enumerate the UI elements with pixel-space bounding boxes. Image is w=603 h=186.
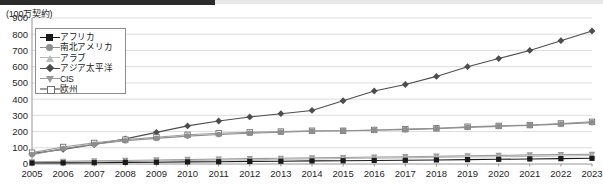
x-axis-tick-label: 2005: [21, 168, 42, 179]
data-point-marker: [184, 122, 191, 129]
data-point-marker: [558, 156, 563, 161]
data-point-marker: [277, 110, 284, 117]
data-point-marker: [123, 160, 128, 165]
data-point-marker: [434, 126, 440, 132]
legend-item-americas: 南北アメリカ: [40, 42, 122, 52]
legend-item-europe: 欧州: [40, 84, 122, 94]
x-axis-tick-label: 2006: [53, 168, 74, 179]
data-point-marker: [558, 121, 564, 127]
legend-label: アジア太平洋: [60, 63, 112, 73]
data-point-marker: [154, 136, 160, 142]
filled-triangle-icon: [40, 53, 60, 63]
y-axis-tick-label: 200: [12, 126, 28, 137]
data-point-marker: [247, 159, 252, 164]
data-point-marker: [464, 63, 471, 70]
data-point-marker: [403, 158, 408, 163]
data-point-marker: [215, 118, 222, 125]
data-point-marker: [527, 156, 532, 161]
data-point-marker: [495, 55, 502, 62]
x-axis-tick-label: 2022: [550, 168, 571, 179]
chart-figure: (100万契約) 9008007006005004003002001000200…: [0, 0, 603, 186]
legend-label: アラブ: [60, 53, 86, 63]
data-point-marker: [434, 157, 439, 162]
legend-item-asia-pacific: アジア太平洋: [40, 63, 122, 73]
data-point-marker: [309, 128, 315, 134]
y-axis-tick-label: 500: [12, 77, 28, 88]
x-axis-tick-label: 2016: [364, 168, 385, 179]
x-axis-tick-label: 2015: [333, 168, 354, 179]
legend-item-arab: アラブ: [40, 53, 122, 63]
legend-item-africa: アフリカ: [40, 32, 122, 42]
x-axis-tick-label: 2014: [301, 168, 322, 179]
data-point-marker: [433, 73, 440, 80]
data-point-marker: [91, 141, 97, 147]
series-open-square: [29, 119, 594, 155]
data-point-marker: [340, 128, 346, 134]
legend-label: 南北アメリカ: [60, 42, 112, 52]
y-axis-tick-label: 600: [12, 61, 28, 72]
data-point-marker: [465, 125, 471, 131]
y-axis-tick-label: 700: [12, 45, 28, 56]
x-axis-tick-label: 2023: [581, 168, 602, 179]
x-axis-tick-label: 2017: [395, 168, 416, 179]
x-axis-tick-label: 2009: [146, 168, 167, 179]
x-axis-tick-label: 2010: [177, 168, 198, 179]
y-axis-tick-label: 900: [12, 12, 28, 23]
data-point-marker: [92, 160, 97, 165]
legend-label: アフリカ: [60, 32, 95, 42]
filled-diamond-icon: [40, 63, 60, 73]
data-point-marker: [496, 124, 502, 130]
chart-legend: アフリカ 南北アメリカ アラブ アジア太平洋 CIS 欧州: [35, 28, 126, 94]
x-axis-tick-label: 2018: [426, 168, 447, 179]
data-point-marker: [60, 146, 66, 152]
legend-label: 欧州: [60, 84, 77, 94]
data-point-marker: [403, 127, 409, 133]
data-point-marker: [123, 138, 129, 144]
x-axis-tick-label: 2020: [488, 168, 509, 179]
open-square-icon: [40, 84, 60, 94]
x-axis-tick-label: 2008: [115, 168, 136, 179]
data-point-marker: [557, 37, 564, 44]
x-axis-tick-label: 2021: [519, 168, 540, 179]
data-point-marker: [589, 120, 595, 126]
legend-label: CIS: [60, 74, 73, 84]
data-point-marker: [341, 158, 346, 163]
data-point-marker: [589, 156, 594, 161]
data-point-marker: [589, 28, 596, 35]
data-point-marker: [309, 158, 314, 163]
data-point-marker: [246, 114, 253, 121]
x-axis-tick-label: 2019: [457, 168, 478, 179]
legend-item-cis: CIS: [40, 74, 122, 84]
filled-square-icon: [40, 32, 60, 42]
data-point-marker: [247, 130, 253, 136]
data-point-marker: [154, 160, 159, 165]
x-axis-tick-label: 2007: [84, 168, 105, 179]
data-point-marker: [371, 127, 377, 133]
data-point-marker: [216, 132, 222, 138]
y-axis-tick-label: 400: [12, 94, 28, 105]
x-axis-tick-label: 2013: [270, 168, 291, 179]
inverted-triangle-icon: [40, 74, 60, 84]
series-filled-circle: [29, 120, 595, 158]
data-point-marker: [185, 159, 190, 164]
y-axis-tick-label: 100: [12, 142, 28, 153]
data-point-marker: [29, 152, 35, 158]
y-axis-tick-label: 800: [12, 29, 28, 40]
x-axis-tick-label: 2012: [239, 168, 260, 179]
filled-circle-icon: [40, 42, 60, 52]
data-point-marker: [185, 133, 191, 139]
data-point-marker: [309, 107, 316, 114]
data-point-marker: [371, 88, 378, 95]
y-axis-tick-label: 300: [12, 110, 28, 121]
x-axis-tick-label: 2011: [208, 168, 228, 179]
data-point-marker: [29, 160, 34, 165]
data-point-marker: [372, 158, 377, 163]
data-point-marker: [402, 81, 409, 88]
data-point-marker: [61, 160, 66, 165]
data-point-marker: [465, 157, 470, 162]
data-point-marker: [496, 157, 501, 162]
series-line: [32, 123, 592, 155]
data-point-marker: [278, 159, 283, 164]
data-point-marker: [527, 123, 533, 129]
data-point-marker: [340, 97, 347, 104]
